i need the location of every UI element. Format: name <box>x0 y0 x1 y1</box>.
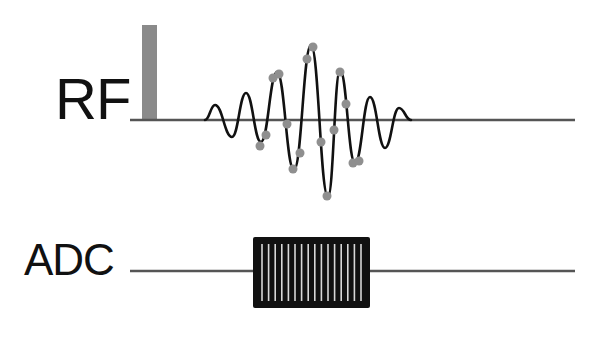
sample-dot <box>309 43 318 52</box>
pulse-sequence-diagram <box>0 0 602 337</box>
sample-dot <box>330 126 339 135</box>
adc-row <box>130 237 575 308</box>
sample-dot <box>303 55 312 64</box>
rf-excitation-pulse-bar <box>142 25 157 120</box>
sample-dot <box>355 157 364 166</box>
sample-dot <box>256 142 265 151</box>
sample-dot <box>336 68 345 77</box>
sample-dot <box>317 138 326 147</box>
adc-readout-window <box>253 237 370 308</box>
rf-row <box>130 25 575 201</box>
sample-dot <box>275 70 284 79</box>
sample-dot <box>283 120 292 129</box>
sample-dot <box>323 192 332 201</box>
sample-dot <box>342 100 351 109</box>
sample-dot <box>262 131 271 140</box>
sample-dot <box>289 165 298 174</box>
sample-dot <box>296 149 305 158</box>
